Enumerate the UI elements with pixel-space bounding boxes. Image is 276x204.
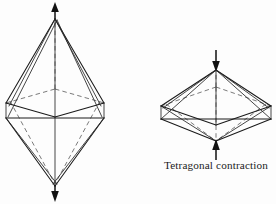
- upper-pyramid-edges-elongation: [6, 19, 104, 117]
- axis-arrow-bottom-elongation: [51, 185, 59, 202]
- caption-tetragonal-contraction: Tetragonal contraction: [164, 159, 268, 171]
- tetragonal-distortion-diagram: Tetragonal contraction: [0, 0, 276, 204]
- axis-arrow-top-contraction: [212, 50, 220, 72]
- elongated-octahedron-panel: [6, 2, 104, 202]
- figure-root: Tetragonal contraction: [0, 0, 276, 204]
- lower-pyramid-edges-elongation: [6, 117, 104, 186]
- axis-arrow-bottom-contraction: [212, 139, 220, 160]
- axis-arrow-top-elongation: [51, 2, 59, 19]
- flattened-octahedron-panel: Tetragonal contraction: [161, 50, 271, 171]
